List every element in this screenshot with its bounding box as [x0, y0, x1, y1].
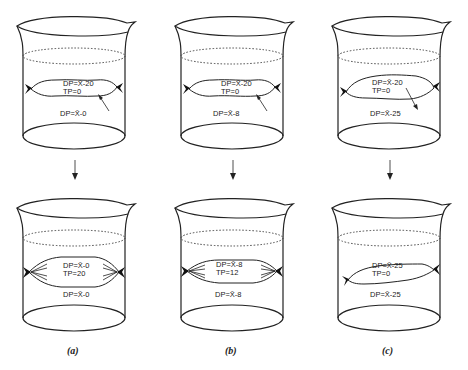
panel-caption-b: (b)	[225, 345, 237, 357]
panel-b: DP=X̄-20 TP=0 DP=X̄-8 DP=X̄-8 TP=12 DP=X…	[175, 17, 293, 357]
bag-tp-label: TP=0	[221, 87, 239, 96]
bag-tp-label: TP=0	[63, 87, 81, 96]
transition-arrow-b	[230, 160, 236, 180]
bag-tp-label: TP=0	[372, 269, 390, 278]
bag-tp-label: TP=12	[216, 268, 238, 277]
beaker-dp-label: DP=X̄-0	[60, 109, 86, 118]
osmosis-diagram: DP=X̄-20 TP=0 DP=X̄-0 DP=X̄-0 TP=20 DP=X…	[0, 0, 468, 370]
beaker-dp-label: DP=X̄-8	[213, 109, 239, 118]
beaker-dp-label: DP=X̄-25	[370, 290, 401, 299]
transition-arrow-c	[387, 160, 393, 180]
beaker-dp-label: DP=X̄-8	[215, 290, 241, 299]
beaker-dp-label: DP=X̄-25	[370, 109, 401, 118]
bag-tp-label: TP=20	[63, 269, 85, 278]
beaker-dp-label: DP=X̄-0	[63, 290, 89, 299]
transition-arrow-a	[72, 160, 78, 180]
bag-tp-label: TP=0	[372, 86, 390, 95]
panel-caption-a: (a)	[67, 345, 79, 357]
panel-a: DP=X̄-20 TP=0 DP=X̄-0 DP=X̄-0 TP=20 DP=X…	[17, 17, 135, 357]
panel-c: DP=X̄-20 TP=0 DP=X̄-25 DP=X̄-25 TP=0 DP=…	[332, 17, 450, 357]
panel-caption-c: (c)	[382, 345, 393, 357]
